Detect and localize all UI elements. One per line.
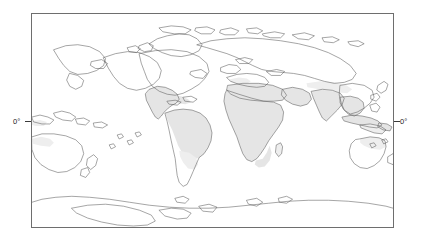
- latitude-label-right: 0°: [400, 118, 407, 126]
- coastlines: [32, 25, 393, 225]
- latitude-tick-right: [394, 121, 400, 122]
- map-plot-frame: [31, 13, 394, 228]
- world-map-canvas: [32, 14, 393, 227]
- world-map-figure: 0° 0°: [0, 0, 425, 240]
- distribution-range-shading: [32, 77, 392, 169]
- latitude-label-left: 0°: [13, 118, 20, 126]
